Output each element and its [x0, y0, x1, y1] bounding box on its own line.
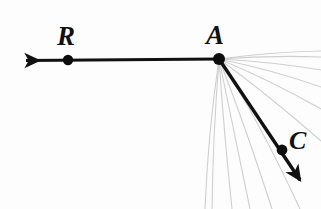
- geometry-figure: R A C: [0, 0, 321, 209]
- figure-canvas: [0, 0, 321, 209]
- faint-ray: [219, 59, 321, 70]
- faint-ray: [219, 59, 300, 209]
- ray-ar: [26, 59, 219, 61]
- point-c-dot: [277, 145, 288, 156]
- point-label-a: A: [206, 22, 224, 49]
- point-r-dot: [63, 55, 73, 65]
- point-a-dot: [213, 53, 225, 65]
- point-label-c: C: [289, 128, 306, 154]
- faint-ray: [219, 59, 232, 209]
- point-label-r: R: [57, 23, 75, 50]
